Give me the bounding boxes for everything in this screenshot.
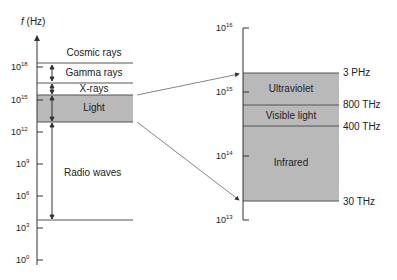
boundary-3phz: 3 PHz [343, 68, 370, 78]
band-light: Light [55, 103, 133, 113]
tick-1e16: 1016 [216, 22, 233, 33]
tick-1e9: 109 [16, 158, 29, 169]
tick-1e0: 100 [16, 254, 29, 265]
band-gamma-rays: Gamma rays [55, 68, 133, 78]
band-infrared: Infrared [243, 158, 339, 168]
tick-1e14: 1014 [216, 150, 233, 161]
band-radio-waves: Radio waves [64, 168, 121, 178]
tick-1e6: 106 [16, 190, 29, 201]
tick-1e13: 1013 [216, 214, 233, 225]
spectrum-graphics [0, 0, 397, 280]
band-x-rays: X-rays [55, 84, 133, 94]
left-axis-title: f (Hz) [21, 17, 45, 27]
band-ultraviolet: Ultraviolet [243, 84, 339, 94]
tick-1e15: 1015 [11, 94, 28, 105]
boundary-400thz: 400 THz [343, 122, 381, 132]
boundary-30thz: 30 THz [343, 197, 375, 207]
boundary-800thz: 800 THz [343, 100, 381, 110]
band-cosmic-rays: Cosmic rays [55, 48, 133, 58]
tick-r-1e15: 1015 [216, 86, 233, 97]
tick-1e3: 103 [16, 222, 29, 233]
band-visible-light: Visible light [243, 111, 339, 121]
tick-1e18: 1018 [11, 61, 28, 72]
tick-1e12: 1012 [11, 126, 28, 137]
